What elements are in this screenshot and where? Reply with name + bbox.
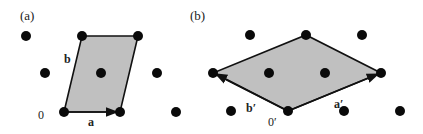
vector-b-prime-label: b′ [246, 101, 256, 115]
lattice-diagram: (a) 0 a b (b) 0′ a′ b′ [0, 0, 423, 134]
panel-a-label: (a) [20, 8, 34, 23]
panel-b: (b) 0′ a′ b′ [190, 8, 405, 129]
vector-b-label: b [64, 52, 71, 66]
vector-a-label: a [88, 115, 94, 129]
origin-label-b: 0′ [268, 115, 277, 129]
panel-b-label: (b) [190, 8, 205, 23]
unit-cell-b [213, 35, 381, 111]
panel-a: (a) 0 a b [20, 8, 181, 129]
origin-label-a: 0 [38, 108, 44, 122]
vector-a-prime-label: a′ [334, 97, 343, 111]
